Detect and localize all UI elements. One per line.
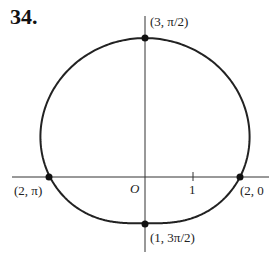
polar-plot xyxy=(0,0,269,256)
label-origin: O xyxy=(130,181,139,197)
label-point-bottom: (1, 3π/2) xyxy=(150,230,195,246)
label-point-top: (3, π/2) xyxy=(150,14,188,30)
label-tick-1: 1 xyxy=(189,182,196,198)
label-point-right: (2, 0 xyxy=(240,183,264,199)
label-point-left: (2, π) xyxy=(14,183,42,199)
point-top xyxy=(142,35,149,42)
point-bottom xyxy=(142,221,149,228)
point-left xyxy=(46,174,53,181)
point-right xyxy=(237,174,244,181)
